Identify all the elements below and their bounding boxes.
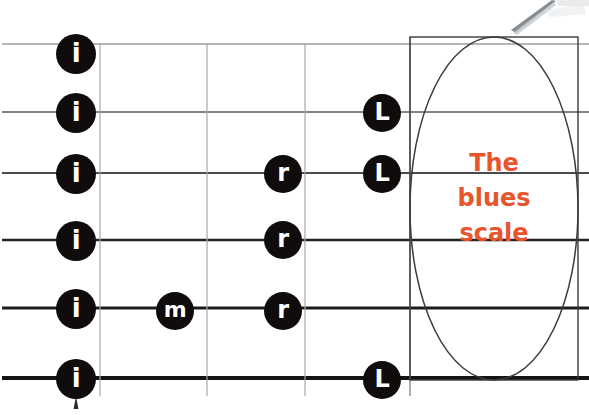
finger-marker-L-string2[interactable]: L — [363, 94, 401, 132]
finger-marker-r-string5[interactable]: r — [264, 292, 302, 330]
callout-title-line-3: scale — [419, 216, 569, 251]
finger-marker-label: L — [375, 161, 390, 185]
frets-group — [100, 37, 410, 396]
finger-marker-label: r — [277, 298, 288, 322]
finger-marker-label: i — [72, 99, 80, 125]
finger-marker-i-string2[interactable]: i — [56, 93, 96, 133]
fretboard-diagram: i i i i i i m r r r L L L The blues scal… — [0, 0, 589, 415]
finger-marker-r-string4[interactable]: r — [264, 221, 302, 259]
finger-marker-i-string3[interactable]: i — [56, 154, 96, 194]
finger-marker-i-string6[interactable]: i — [56, 359, 96, 399]
finger-marker-label: r — [277, 161, 288, 185]
finger-marker-L-string3[interactable]: L — [363, 155, 401, 193]
finger-marker-label: i — [72, 160, 80, 186]
finger-marker-label: L — [375, 367, 390, 391]
finger-marker-label: L — [375, 100, 390, 124]
finger-marker-label: r — [277, 227, 288, 251]
callout-title: The blues scale — [419, 146, 569, 250]
finger-marker-i-string4[interactable]: i — [56, 221, 96, 261]
callout-title-line-2: blues — [419, 181, 569, 216]
finger-marker-label: i — [72, 365, 80, 391]
stylus-pen-tip-icon — [511, 0, 589, 35]
finger-marker-label: i — [72, 227, 80, 253]
finger-marker-label: i — [72, 295, 80, 321]
finger-marker-label: m — [164, 299, 186, 321]
finger-marker-L-string6[interactable]: L — [363, 361, 401, 399]
finger-marker-i-string1[interactable]: i — [56, 34, 96, 74]
finger-marker-m-string5[interactable]: m — [156, 292, 194, 330]
finger-marker-r-string3[interactable]: r — [264, 155, 302, 193]
callout-title-line-1: The — [419, 146, 569, 181]
finger-marker-label: i — [72, 40, 80, 66]
finger-marker-i-string5[interactable]: i — [56, 289, 96, 329]
